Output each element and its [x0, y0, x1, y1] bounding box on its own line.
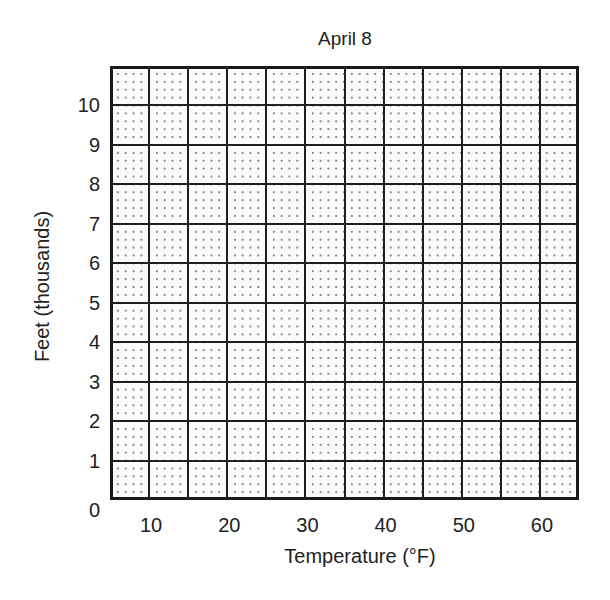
grid-vline — [187, 66, 189, 500]
grid-vline — [461, 66, 463, 500]
x-tick-label: 60 — [512, 514, 572, 537]
grid-hline — [110, 302, 579, 304]
grid-vline — [148, 66, 150, 500]
x-axis-label: Temperature (°F) — [250, 545, 470, 568]
grid-vline — [383, 66, 385, 500]
grid-hline — [110, 381, 579, 383]
grid-vline — [304, 66, 306, 500]
grid-vline — [500, 66, 502, 500]
y-axis-label: Feet (thousands) — [31, 182, 54, 392]
grid-vline — [226, 66, 228, 500]
grid-vline — [265, 66, 267, 500]
grid-hline — [110, 144, 579, 146]
x-tick-label: 40 — [356, 514, 416, 537]
grid-vline — [344, 66, 346, 500]
grid-vline — [539, 66, 541, 500]
grid-hline — [110, 262, 579, 264]
y-tick-label: 6 — [50, 253, 100, 273]
y-tick-label: 5 — [50, 293, 100, 313]
y-tick-label: 3 — [50, 372, 100, 392]
x-tick-label: 30 — [277, 514, 337, 537]
y-tick-label: 7 — [50, 214, 100, 234]
y-tick-label: 4 — [50, 332, 100, 352]
x-tick-label: 10 — [121, 514, 181, 537]
y-tick-label: 1 — [50, 451, 100, 471]
x-tick-label: 20 — [199, 514, 259, 537]
grid-hline — [110, 183, 579, 185]
y-tick-label: 10 — [50, 95, 100, 115]
grid-hline — [110, 104, 579, 106]
y-tick-label: 2 — [50, 411, 100, 431]
grid-hline — [110, 223, 579, 225]
y-tick-label: 8 — [50, 174, 100, 194]
y-tick-label: 0 — [50, 500, 100, 520]
grid-hline — [110, 460, 579, 462]
chart-title: April 8 — [0, 28, 610, 50]
grid-vline — [422, 66, 424, 500]
y-tick-label: 9 — [50, 135, 100, 155]
grid-hline — [110, 341, 579, 343]
x-tick-label: 50 — [434, 514, 494, 537]
grid-hline — [110, 420, 579, 422]
